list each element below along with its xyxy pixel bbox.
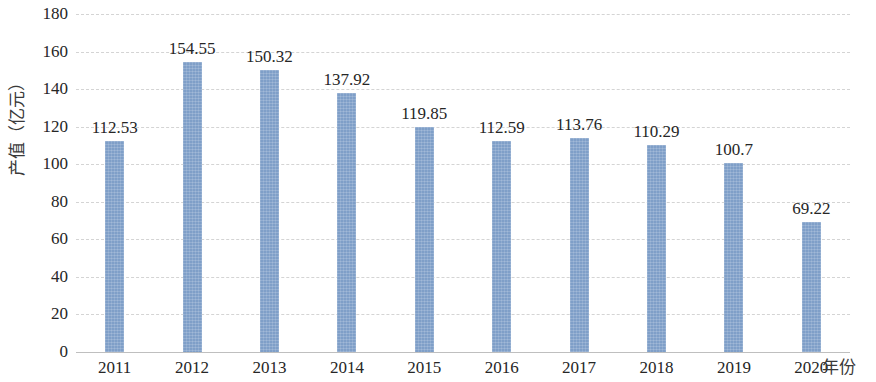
bar-value-label: 119.85 bbox=[401, 104, 447, 124]
bar[interactable] bbox=[647, 145, 666, 352]
bar[interactable] bbox=[105, 141, 124, 352]
bar[interactable] bbox=[492, 141, 511, 352]
bar-value-label: 110.29 bbox=[633, 122, 679, 142]
x-tick-label: 2014 bbox=[330, 356, 364, 380]
bar-group: 100.7 bbox=[695, 0, 772, 352]
bars-layer: 112.53154.55150.32137.92119.85112.59113.… bbox=[76, 14, 850, 352]
x-tick-label: 2016 bbox=[485, 356, 519, 380]
x-tick-label: 2015 bbox=[407, 356, 441, 380]
bar-chart: 产值（亿元） 020406080100120140160180 112.5315… bbox=[0, 0, 876, 382]
bar-group: 69.22 bbox=[773, 0, 850, 352]
bar[interactable] bbox=[337, 93, 356, 352]
bar[interactable] bbox=[415, 127, 434, 352]
x-axis-tick-labels: 2011201220132014201520162017201820192020 bbox=[76, 356, 850, 382]
bar-group: 119.85 bbox=[386, 0, 463, 352]
bar-value-label: 100.7 bbox=[715, 140, 753, 160]
bar-group: 113.76 bbox=[540, 0, 617, 352]
x-tick-label: 2013 bbox=[253, 356, 287, 380]
y-tick-label: 60 bbox=[20, 229, 68, 249]
bar-group: 137.92 bbox=[308, 0, 385, 352]
x-axis-title: 年份 bbox=[822, 356, 856, 380]
y-tick-label: 140 bbox=[20, 79, 68, 99]
bar-group: 112.59 bbox=[463, 0, 540, 352]
bar-group: 110.29 bbox=[618, 0, 695, 352]
bar-value-label: 154.55 bbox=[169, 39, 216, 59]
plot-area: 112.53154.55150.32137.92119.85112.59113.… bbox=[76, 14, 850, 352]
y-tick-label: 0 bbox=[20, 342, 68, 362]
axis-baseline bbox=[76, 352, 850, 353]
bar[interactable] bbox=[570, 138, 589, 352]
bar-value-label: 112.53 bbox=[92, 118, 138, 138]
bar-group: 150.32 bbox=[231, 0, 308, 352]
bar-group: 154.55 bbox=[153, 0, 230, 352]
bar[interactable] bbox=[260, 70, 279, 352]
bar-value-label: 150.32 bbox=[246, 47, 293, 67]
x-tick-label: 2017 bbox=[562, 356, 596, 380]
bar-group: 112.53 bbox=[76, 0, 153, 352]
x-tick-label: 2011 bbox=[98, 356, 131, 380]
y-tick-label: 100 bbox=[20, 154, 68, 174]
bar[interactable] bbox=[802, 222, 821, 352]
y-tick-label: 120 bbox=[20, 117, 68, 137]
x-tick-label: 2018 bbox=[640, 356, 674, 380]
y-tick-label: 180 bbox=[20, 4, 68, 24]
y-tick-label: 80 bbox=[20, 192, 68, 212]
bar[interactable] bbox=[724, 163, 743, 352]
bar-value-label: 137.92 bbox=[324, 70, 371, 90]
y-axis-tick-labels: 020406080100120140160180 bbox=[20, 0, 68, 382]
bar-value-label: 112.59 bbox=[479, 118, 525, 138]
y-tick-label: 160 bbox=[20, 42, 68, 62]
y-tick-label: 20 bbox=[20, 304, 68, 324]
bar[interactable] bbox=[183, 62, 202, 352]
x-tick-label: 2012 bbox=[175, 356, 209, 380]
bar-value-label: 113.76 bbox=[556, 115, 602, 135]
bar-value-label: 69.22 bbox=[792, 199, 830, 219]
y-tick-label: 40 bbox=[20, 267, 68, 287]
x-tick-label: 2019 bbox=[717, 356, 751, 380]
